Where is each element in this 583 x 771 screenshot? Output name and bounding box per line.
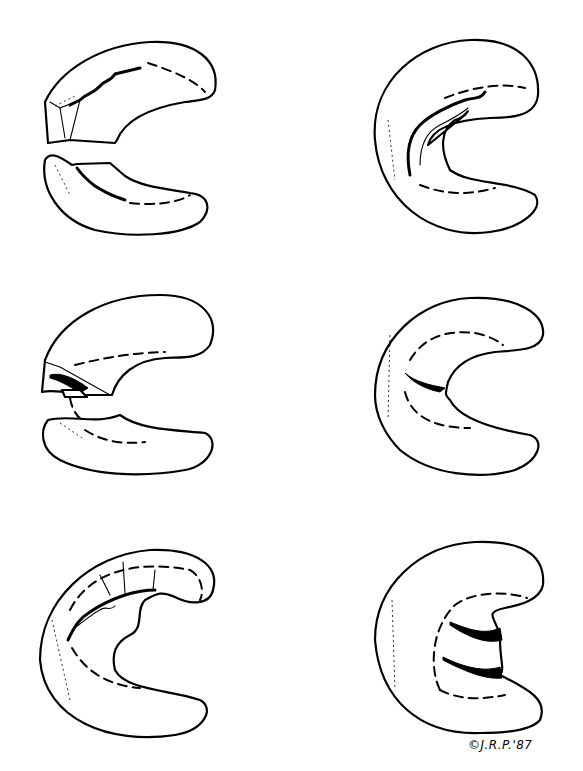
panel-middle-right [375, 298, 543, 475]
panel-middle-left [42, 295, 213, 474]
panel-bottom-left [40, 550, 214, 737]
panel-top-left [44, 42, 215, 235]
artist-signature: ©J.R.P.'87 [468, 738, 532, 752]
panel-top-right [375, 40, 538, 233]
panel-bottom-right [375, 542, 543, 733]
meniscus-tear-illustration [0, 0, 583, 771]
